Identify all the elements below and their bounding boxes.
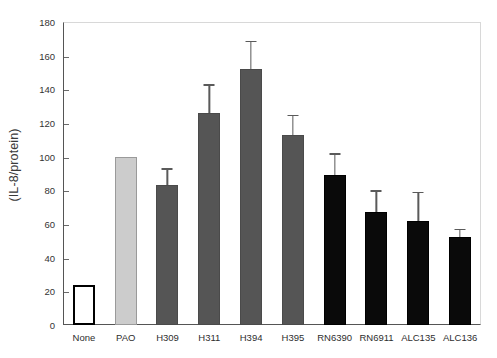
x-tick-label: ALC136 — [443, 332, 477, 343]
y-tick-label: 120 — [39, 118, 55, 129]
error-bar-line — [250, 41, 251, 70]
bar-group — [63, 22, 105, 325]
bar-group — [230, 22, 272, 325]
chart-container: (IL-8/protein) 020406080100120140160180 … — [0, 0, 497, 358]
error-bar-line — [418, 192, 419, 221]
bar — [73, 285, 95, 325]
error-bar-cap — [455, 229, 466, 230]
error-bar-cap — [287, 115, 298, 116]
y-axis-tick-labels: 020406080100120140160180 — [28, 0, 59, 358]
error-bar-cap — [204, 84, 215, 85]
bar — [449, 237, 471, 325]
bar-group — [439, 22, 481, 325]
bar — [156, 185, 178, 325]
bar — [365, 212, 387, 325]
error-bar-cap — [371, 190, 382, 191]
error-bar-cap — [413, 192, 424, 193]
bar-series — [63, 22, 481, 325]
y-axis-title-text: (IL-8/protein) — [7, 129, 21, 202]
y-tick-label: 40 — [44, 252, 55, 263]
y-tick-label: 100 — [39, 151, 55, 162]
y-tick-label: 160 — [39, 50, 55, 61]
y-tick-label: 80 — [44, 185, 55, 196]
error-bar-line — [209, 84, 210, 113]
y-axis-title: (IL-8/protein) — [0, 0, 28, 330]
x-tick-label: H395 — [282, 332, 305, 343]
bar — [407, 221, 429, 325]
bar-group — [356, 22, 398, 325]
x-tick-label: None — [73, 332, 96, 343]
bar-group — [272, 22, 314, 325]
bar — [240, 69, 262, 325]
y-tick-label: 0 — [50, 320, 55, 331]
y-tick-label: 60 — [44, 219, 55, 230]
y-tick-label: 180 — [39, 17, 55, 28]
x-axis-tick-labels: NonePAOH309H311H394H395RN6390RN6911ALC13… — [63, 329, 481, 353]
bar-group — [314, 22, 356, 325]
bar-group — [147, 22, 189, 325]
x-tick-label: RN6911 — [359, 332, 393, 343]
x-tick-label: RN6390 — [317, 332, 352, 343]
error-bar-line — [167, 168, 168, 185]
bar-group — [105, 22, 147, 325]
x-tick-label: H309 — [156, 332, 179, 343]
bar — [198, 113, 220, 325]
error-bar-line — [334, 153, 335, 175]
error-bar-line — [292, 115, 293, 135]
bar-group — [397, 22, 439, 325]
x-tick-label: PAO — [116, 332, 135, 343]
error-bar-cap — [162, 168, 173, 169]
bar — [282, 135, 304, 325]
error-bar-cap — [246, 41, 257, 42]
error-bar-line — [376, 190, 377, 212]
y-tick-label: 140 — [39, 84, 55, 95]
x-tick-label: H311 — [198, 332, 220, 343]
bar — [324, 175, 346, 325]
bar — [115, 157, 137, 325]
error-bar-cap — [329, 153, 340, 154]
bar-group — [188, 22, 230, 325]
y-tick-label: 20 — [44, 286, 55, 297]
x-tick-label: H394 — [240, 332, 263, 343]
x-tick-label: ALC135 — [401, 332, 435, 343]
